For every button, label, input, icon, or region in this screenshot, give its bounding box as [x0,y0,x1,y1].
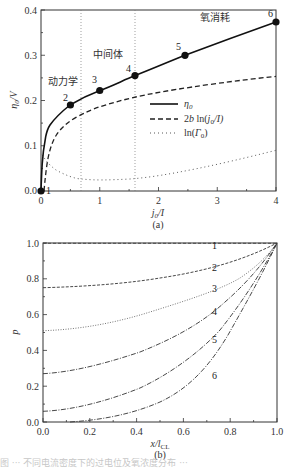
legend-label-ln-gamma0: ln(Γ0) [184,127,208,140]
chart-b-ytick-4: 0.8 [27,273,40,284]
point-label-4: 4 [126,63,131,74]
series-ln-gamma0 [42,150,276,180]
chart-a-ytick-1: 0.1 [25,140,38,151]
chart-a-legend: η0 2b ln(j0/I) ln(Γ0) [150,98,224,140]
curve-label-3: 3 [212,283,217,294]
chart-a: 0.0 0.1 0.2 0.3 0.4 0 1 2 3 4 j0/I η0/V … [8,5,280,232]
curve-4 [43,243,277,374]
point-6 [272,18,279,25]
chart-a-xtick-1: 1 [97,195,102,206]
chart-b-xtick-5: 1.0 [271,426,284,437]
chart-b-xtick-0: 0.0 [37,426,50,437]
curve-5 [43,243,277,411]
point-label-1: 1 [46,185,51,196]
series-2b-ln [44,76,276,191]
curve-label-4: 4 [212,306,217,317]
chart-a-x-ticks [41,187,276,191]
chart-b-y-ticks [43,243,47,422]
chart-b-ylabel: p [9,330,20,336]
curve-2 [43,243,277,288]
point-3 [96,87,103,94]
curve-label-5: 5 [212,334,217,345]
region-label-oxygen: 氧消耗 [200,11,230,23]
curve-label-6: 6 [212,370,217,381]
point-label-3: 3 [92,74,97,85]
chart-b-ytick-3: 0.6 [27,309,40,320]
chart-a-ytick-0: 0.0 [25,185,38,196]
chart-b-xtick-1: 0.2 [84,426,97,437]
chart-b-x-ticks [43,418,277,422]
region-label-kinetic: 动力学 [48,75,78,87]
point-label-6: 6 [268,8,273,19]
curve-label-1: 1 [212,240,217,251]
chart-a-ylabel: η0/V [8,89,21,108]
region-label-intermediate: 中间体 [93,48,123,60]
chart-a-ytick-3: 0.3 [25,50,38,61]
chart-b-ytick-2: 0.4 [27,345,40,356]
legend-label-eta0: η0 [184,98,193,111]
figure-caption-partial: 图 ··· 不同电流密度下的过电位及氧浓度分布 ··· [0,458,285,468]
chart-b-xtick-3: 0.6 [177,426,190,437]
chart-b-ytick-5: 1.0 [27,238,40,249]
point-label-5: 5 [176,41,181,52]
chart-b-xtick-2: 0.4 [130,426,143,437]
point-5 [181,52,188,59]
chart-a-xtick-0: 0 [39,195,44,206]
chart-b: 0.0 0.2 0.4 0.6 0.8 1.0 0.0 0.2 0.4 0.6 … [9,238,283,462]
legend-label-2b-ln: 2b ln(j0/I) [184,113,224,126]
curve-label-2: 2 [212,262,217,273]
chart-b-ytick-1: 0.2 [27,381,40,392]
figure-canvas: 0.0 0.1 0.2 0.3 0.4 0 1 2 3 4 j0/I η0/V … [0,0,285,468]
chart-b-frame [43,243,277,422]
chart-a-xtick-2: 2 [156,195,161,206]
curve-6 [70,243,277,422]
chart-a-ytick-4: 0.4 [25,5,38,16]
chart-a-xtick-3: 3 [215,195,220,206]
point-4 [131,72,138,79]
point-label-2: 2 [63,92,68,103]
chart-a-ytick-2: 0.2 [25,95,38,106]
chart-a-xtick-4: 4 [274,195,279,206]
chart-a-panel-label: (a) [152,219,163,231]
chart-b-xtick-4: 0.8 [224,426,237,437]
point-1 [37,187,44,194]
series-eta0 [41,22,276,191]
chart-a-points [37,18,279,194]
curve-3 [43,243,277,331]
